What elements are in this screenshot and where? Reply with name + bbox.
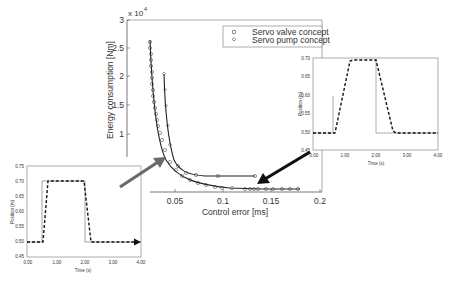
inset-left-ytick-4: 0.55 (15, 224, 24, 229)
inset-left-ytick-6: 0.45 (15, 254, 24, 259)
inset-right-xtick-1: 1.00 (341, 153, 350, 158)
black-arrow (257, 152, 310, 184)
inset-left-ytick-1: 0.70 (15, 179, 24, 184)
inset-left-xtick-1: 1.00 (53, 260, 62, 265)
main-y-multiplier-exp: 4 (144, 6, 147, 12)
inset-left-x-label: Time (s) (75, 268, 92, 273)
servo-valve-markers (148, 40, 299, 190)
figure: 3 2.5 2 1.5 1 x 10 4 Energy consumption … (0, 0, 453, 281)
main-ytick-4: 1 (119, 129, 124, 139)
inset-left-xtick-4: 4.00 (137, 260, 146, 265)
inset-left-ytick-3: 0.60 (15, 209, 24, 214)
inset-right-chart: 0.70 0.65 0.60 0.55 0.50 0.45 Position (… (298, 56, 443, 166)
servo-valve-curve (150, 40, 300, 189)
inset-left-ytick-2: 0.65 (15, 194, 24, 199)
main-ytick-0: 3 (119, 15, 124, 25)
inset-left-ytick-0: 0.75 (15, 164, 24, 169)
inset-left-xtick-2: 2.00 (81, 260, 90, 265)
main-legend: Servo valve concept Servo pump concept (223, 26, 331, 47)
main-x-ticks: 0.05 0.1 0.15 0.2 (167, 189, 326, 206)
inset-left-xtick-0: 0.00 (24, 260, 33, 265)
inset-left-chart: 0.75 0.70 0.65 0.60 0.55 0.50 0.45 Posit… (10, 164, 146, 273)
inset-right-frame (313, 58, 438, 150)
inset-right-xtick-0: 0.00 (310, 153, 319, 158)
main-xtick-2: 0.15 (263, 196, 280, 206)
inset-left-frame (27, 166, 141, 257)
main-x-label: Control error [ms] (202, 207, 268, 217)
inset-right-x-label: Time (s) (368, 161, 385, 166)
main-xtick-0: 0.05 (167, 196, 184, 206)
main-y-label: Energy consumption [Nm] (105, 41, 115, 139)
inset-right-xtick-4: 4.00 (434, 153, 443, 158)
legend-item-servo-pump: Servo pump concept (252, 35, 331, 45)
inset-left-ytick-5: 0.50 (15, 239, 24, 244)
main-xtick-1: 0.1 (217, 196, 229, 206)
inset-right-ytick-1: 0.65 (301, 74, 310, 79)
inset-left-x-ticks: 0.00 1.00 2.00 3.00 4.00 (24, 260, 146, 265)
inset-right-xtick-2: 2.00 (372, 153, 381, 158)
inset-right-ytick-4: 0.50 (301, 130, 310, 135)
main-y-multiplier: x 10 (128, 9, 144, 18)
black-arrow-shaft (265, 152, 310, 179)
servo-pump-curve (164, 74, 255, 176)
inset-right-xtick-3: 3.00 (403, 153, 412, 158)
inset-right-x-ticks: 0.00 1.00 2.00 3.00 4.00 (310, 153, 443, 158)
inset-left-y-ticks: 0.75 0.70 0.65 0.60 0.55 0.50 0.45 (15, 164, 24, 259)
inset-right-y-label: Position (m) (298, 92, 303, 117)
inset-right-ytick-0: 0.70 (301, 56, 310, 61)
main-xtick-3: 0.2 (314, 196, 326, 206)
inset-left-xtick-3: 3.00 (109, 260, 118, 265)
inset-left-y-label: Position (m) (10, 200, 15, 225)
main-ytick-2: 2 (119, 71, 124, 81)
servo-pump-markers (162, 72, 256, 178)
